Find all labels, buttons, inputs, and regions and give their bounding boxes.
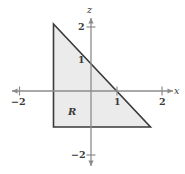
math-figure-region-r: x z −2 1 2 2 1 −2 R <box>0 0 185 174</box>
x-axis-label: x <box>174 86 179 96</box>
z-tick-label-neg2: −2 <box>71 150 86 160</box>
z-axis-label: z <box>87 5 92 15</box>
x-tick-label-2: 2 <box>159 97 166 107</box>
z-tick-label-1: 1 <box>78 55 85 65</box>
region-label-r: R <box>68 107 76 117</box>
x-tick-label-1: 1 <box>114 97 121 107</box>
z-tick-label-2: 2 <box>78 22 85 32</box>
plot-canvas <box>0 0 185 174</box>
x-tick-label-neg2: −2 <box>11 97 26 107</box>
